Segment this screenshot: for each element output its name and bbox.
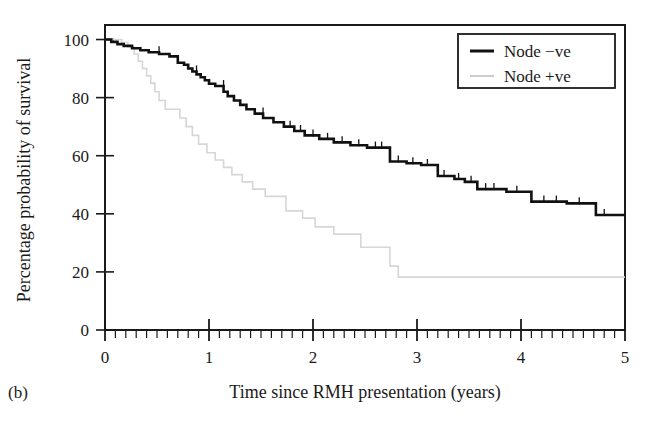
x-tick-label: 4 xyxy=(517,348,526,367)
y-tick-label: 60 xyxy=(72,147,89,166)
y-axis-title: Percentage probability of survival xyxy=(14,58,34,302)
y-tick-label: 40 xyxy=(72,205,89,224)
y-tick-label: 80 xyxy=(72,89,89,108)
x-axis-title: Time since RMH presentation (years) xyxy=(229,382,500,403)
y-tick-label: 100 xyxy=(64,31,90,50)
y-tick-label: 0 xyxy=(81,321,90,340)
x-tick-label: 1 xyxy=(205,348,214,367)
x-tick-label: 3 xyxy=(413,348,422,367)
chart-legend: Node −veNode +ve xyxy=(458,34,615,88)
x-tick-label: 2 xyxy=(309,348,318,367)
survival-curve-figure: 020406080100 012345 Percentage probabili… xyxy=(0,0,649,426)
legend-label: Node −ve xyxy=(504,42,571,61)
x-tick-label: 0 xyxy=(101,348,110,367)
x-tick-label: 5 xyxy=(621,348,630,367)
panel-label: (b) xyxy=(8,383,28,402)
y-tick-label: 20 xyxy=(72,263,89,282)
kaplan-meier-chart: 020406080100 012345 Percentage probabili… xyxy=(0,0,649,426)
legend-label: Node +ve xyxy=(504,67,571,86)
